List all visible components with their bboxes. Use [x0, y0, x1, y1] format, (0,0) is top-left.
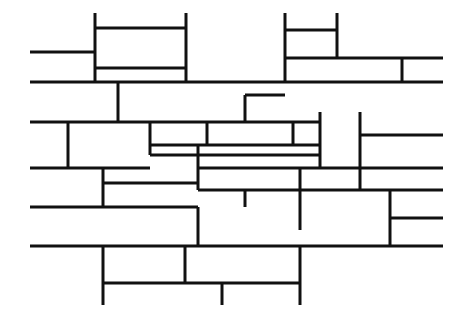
brick-wall-figure: Brick Wall Pattern Line drawing of an ir… — [0, 0, 472, 330]
brick-wall-drawing: Brick Wall Pattern Line drawing of an ir… — [0, 0, 472, 330]
drawing-background — [0, 0, 472, 330]
